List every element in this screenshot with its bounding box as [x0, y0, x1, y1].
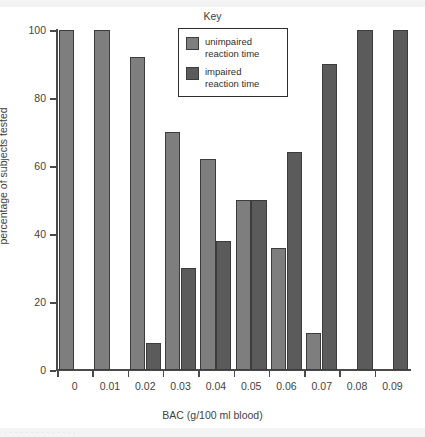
y-axis-tick-label: 0 — [40, 364, 46, 376]
bar-impaired — [322, 64, 337, 370]
y-axis-tick — [50, 30, 56, 32]
bar-unimpaired — [165, 132, 180, 370]
y-axis-tick — [50, 302, 56, 304]
bar-impaired — [216, 241, 231, 370]
bar-unimpaired — [200, 159, 215, 370]
bar-unimpaired — [130, 57, 145, 370]
x-axis-tick-label: 0.05 — [241, 380, 261, 392]
y-axis-tick — [50, 370, 56, 372]
x-axis-tick-label: 0.09 — [382, 380, 402, 392]
x-axis-tick — [92, 370, 94, 377]
x-axis-tick — [375, 370, 377, 377]
bar-impaired — [146, 343, 161, 370]
x-axis-tick-label: 0.07 — [312, 380, 332, 392]
y-axis-tick — [50, 166, 56, 168]
x-axis-tick — [269, 370, 271, 377]
plot-area — [57, 30, 410, 370]
y-axis-tick-label: 80 — [34, 92, 46, 104]
y-axis-tick-label: 60 — [34, 160, 46, 172]
x-axis-tick — [163, 370, 165, 377]
y-axis-tick — [50, 98, 56, 100]
x-axis-tick-label: 0.02 — [135, 380, 155, 392]
x-axis-tick — [304, 370, 306, 377]
y-axis-title: percentage of subjects tested — [0, 61, 9, 291]
x-axis-tick-label: 0.06 — [276, 380, 296, 392]
bar-unimpaired — [94, 30, 109, 370]
x-axis-title: BAC (g/100 ml blood) — [0, 409, 425, 421]
x-axis-tick-label: 0.08 — [347, 380, 367, 392]
bar-impaired — [181, 268, 196, 370]
bar-unimpaired — [236, 200, 251, 370]
bar-unimpaired — [271, 248, 286, 370]
bar-impaired — [251, 200, 266, 370]
y-axis-tick-label: 100 — [28, 24, 46, 36]
y-axis-tick — [50, 234, 56, 236]
x-axis-tick-label: 0.04 — [206, 380, 226, 392]
x-axis-tick — [234, 370, 236, 377]
x-axis-tick — [339, 370, 341, 377]
x-axis-tick — [198, 370, 200, 377]
bar-unimpaired — [306, 333, 321, 370]
scan-edge-band-top — [0, 0, 425, 7]
x-axis-tick-label: 0.03 — [170, 380, 190, 392]
cut-off-footer-text: · · · · · · · · · · · · · · — [4, 428, 76, 437]
x-axis-tick — [128, 370, 130, 377]
key-title: Key — [0, 10, 425, 22]
bar-impaired — [357, 30, 372, 370]
x-axis-tick-label: 0.01 — [100, 380, 120, 392]
chart-page: Key unimpaired reaction time impaired re… — [0, 0, 425, 437]
y-axis-tick-label: 20 — [34, 296, 46, 308]
y-axis-tick-label: 40 — [34, 228, 46, 240]
bar-impaired — [393, 30, 408, 370]
bar-unimpaired — [59, 30, 74, 370]
x-axis-tick — [57, 370, 59, 377]
x-axis-tick-label: 0 — [72, 380, 78, 392]
bar-impaired — [287, 152, 302, 370]
